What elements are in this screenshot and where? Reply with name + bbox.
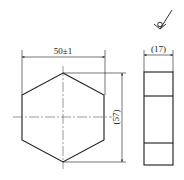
drawing-canvas: 50±1 (57) (17)	[0, 0, 184, 180]
thickness-dimension-label: (17)	[151, 44, 166, 54]
side-view	[144, 72, 173, 165]
front-view	[13, 66, 112, 169]
width-dimension-label: 50±1	[54, 46, 72, 56]
height-dimension-label: (57)	[111, 110, 121, 125]
side-view-outline	[144, 72, 173, 165]
surface-roughness-icon	[154, 10, 172, 29]
